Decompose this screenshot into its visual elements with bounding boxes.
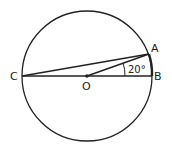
angle-label: 20°: [128, 64, 146, 75]
label-a: A: [151, 42, 159, 55]
arc-ab: [149, 54, 152, 76]
label-o: O: [82, 80, 91, 93]
center-point-o: [85, 74, 89, 78]
circle-diagram: A B C O 20°: [0, 0, 172, 148]
label-c: C: [10, 70, 18, 83]
label-b: B: [154, 70, 162, 83]
angle-arc: [123, 63, 125, 76]
